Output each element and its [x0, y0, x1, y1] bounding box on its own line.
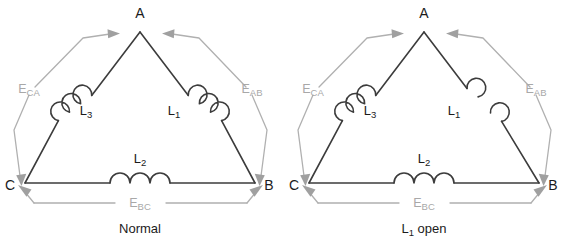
eab-arrow-to-a-line: [172, 34, 246, 87]
vertex-label-c-2: C: [289, 177, 299, 193]
coil-label-l2: L2: [134, 151, 147, 168]
figure-row: ECA EAB EBC: [0, 0, 565, 251]
eca2-arrow-to-a-line: [319, 34, 394, 87]
emf-label-eab-2: EAB: [525, 82, 546, 98]
ebc2-base: E: [413, 196, 421, 210]
ebc2-arrow-to-b-head: [534, 185, 548, 197]
eca-arrow-to-c-head: [16, 174, 26, 186]
coil-label-l3-2: L3: [364, 103, 377, 120]
vertex-label-b-2: B: [548, 177, 557, 193]
side-ab-lower-2: [502, 121, 539, 183]
l1-base-2: L: [448, 103, 455, 118]
vertex-label-b: B: [264, 177, 273, 193]
coil-l2-open-panel: [394, 173, 454, 183]
vertex-label-a-2: A: [419, 5, 429, 21]
caption-base: Normal: [119, 221, 161, 236]
side-ca-lower-2: [309, 121, 342, 183]
side-ab-lower: [222, 121, 255, 183]
eab2-arrow-to-b-line: [536, 95, 551, 176]
eca2-sub: CA: [311, 87, 325, 98]
emf-annotation-ebc-2: EBC: [302, 185, 547, 212]
vertex-label-c: C: [5, 177, 15, 193]
l3-sub-2: 3: [371, 109, 376, 120]
ebc-sub: BC: [138, 201, 151, 212]
eab2-base: E: [525, 82, 533, 96]
eab2-sub: AB: [534, 87, 547, 98]
side-ca-upper: [92, 32, 140, 95]
eca2-arrow-to-c-line: [298, 95, 313, 176]
l3-sub: 3: [87, 109, 92, 120]
ebc-arrow-to-c-head: [18, 185, 32, 197]
coil-label-l2-2: L2: [418, 151, 431, 168]
emf-annotation-ebc: EBC: [18, 185, 263, 212]
ebc-base: E: [129, 196, 137, 210]
l3-base: L: [80, 103, 87, 118]
diagram-panel-normal: ECA EAB EBC: [0, 0, 282, 251]
ebc2-arrow-to-c-head: [302, 185, 316, 197]
eab2-arrow-to-b-head: [539, 174, 549, 186]
side-ca-lower: [25, 121, 58, 183]
l1-sub-2: 1: [455, 109, 460, 120]
vertex-label-a: A: [135, 5, 145, 21]
eab-base: E: [241, 82, 249, 96]
eca-arrow-to-a-head: [108, 29, 121, 38]
eab-arrow-to-b-head: [255, 174, 265, 186]
side-ab-upper: [140, 32, 188, 95]
l2-base: L: [134, 151, 141, 166]
caption-tail-2: open: [414, 221, 447, 236]
eab-sub: AB: [250, 87, 263, 98]
eca2-arrow-to-a-head: [392, 29, 405, 38]
delta-circuit-l1-open: ECA EAB EBC: [282, 0, 565, 251]
emf-label-eab: EAB: [241, 82, 262, 98]
l2-base-2: L: [418, 151, 425, 166]
coil-label-l3: L3: [80, 103, 93, 120]
emf-label-ebc: EBC: [129, 196, 151, 212]
ebc2-sub: BC: [422, 201, 435, 212]
coil-l2-normal: [110, 173, 170, 183]
eab-arrow-to-b-line: [252, 95, 267, 176]
eca-sub: CA: [27, 87, 41, 98]
l2-sub: 2: [141, 157, 146, 168]
l3-base-2: L: [364, 103, 371, 118]
coil-label-l1-2: L1: [448, 103, 461, 120]
eab2-arrow-to-a-head: [446, 29, 459, 38]
ebc-arrow-to-b-head: [250, 185, 264, 197]
l1-base: L: [168, 103, 175, 118]
coil-label-l1: L1: [168, 103, 181, 120]
l2-sub-2: 2: [425, 157, 430, 168]
diagram-panel-l1-open: ECA EAB EBC: [282, 0, 565, 251]
eca2-arrow-to-c-head: [300, 174, 310, 186]
coil-l1-open-top-segment: [467, 78, 486, 97]
coil-l1-normal: [188, 85, 229, 120]
panel-caption-normal: Normal: [119, 221, 161, 236]
emf-annotation-eca-2: ECA: [298, 29, 404, 186]
eca-arrow-to-a-line: [35, 34, 110, 87]
emf-annotation-eca: ECA: [14, 29, 120, 186]
emf-label-ebc-2: EBC: [413, 196, 435, 212]
eca2-base: E: [302, 82, 310, 96]
emf-annotation-eab: EAB: [162, 29, 267, 186]
eab-arrow-to-a-head: [162, 29, 175, 38]
eca-base: E: [18, 82, 26, 96]
delta-circuit-normal: ECA EAB EBC: [0, 0, 282, 251]
caption-base-2: L: [401, 221, 408, 236]
eab2-arrow-to-a-line: [456, 34, 530, 87]
l1-sub: 1: [175, 109, 180, 120]
coil-l1-open-bottom-segment: [490, 103, 509, 122]
side-ab-upper-2: [424, 32, 467, 89]
side-ca-upper-2: [376, 32, 424, 95]
emf-annotation-eab-2: EAB: [446, 29, 551, 186]
eca-arrow-to-c-line: [14, 95, 29, 176]
panel-caption-l1-open: L1 open: [401, 221, 446, 238]
